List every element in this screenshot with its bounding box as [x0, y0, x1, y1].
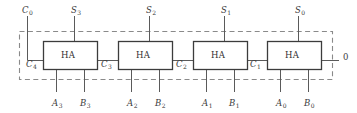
input-label-b0-subscript: 0 [311, 102, 315, 109]
input-label-a2-base: A [127, 98, 133, 108]
carry-label-3: C3 [101, 60, 112, 69]
carry-label-4: C4 [26, 60, 37, 69]
input-label-a0: A0 [276, 99, 286, 108]
input-label-b0-base: B [304, 98, 310, 108]
input-label-a0-subscript: 0 [283, 102, 287, 109]
input-label-a2-subscript: 2 [134, 102, 138, 109]
input-label-b2-base: B [155, 98, 161, 108]
carry-label-3-base: C [101, 59, 108, 69]
sum-label-2-subscript: 2 [152, 9, 156, 16]
input-label-a3-subscript: 3 [59, 102, 63, 109]
carry-label-3-subscript: 3 [108, 63, 112, 70]
carry-in-wire [28, 16, 44, 61]
carry-label-2: C2 [176, 60, 187, 69]
input-label-a1-subscript: 1 [209, 102, 213, 109]
sum-label-1: S1 [221, 6, 231, 15]
sum-label-0: S0 [295, 6, 305, 15]
sum-label-2: S2 [146, 6, 156, 15]
carry-label-1-base: C [250, 59, 257, 69]
input-label-a3-base: A [52, 98, 58, 108]
carry-label-1: C1 [250, 60, 261, 69]
input-label-b0: B0 [304, 99, 314, 108]
input-label-a1: A1 [202, 99, 212, 108]
carry-label-1-subscript: 1 [257, 63, 261, 70]
input-label-a2: A2 [127, 99, 137, 108]
input-label-a3: A3 [52, 99, 62, 108]
carry-label-4-base: C [26, 59, 33, 69]
half-adder-label-1: HA [136, 51, 150, 60]
input-label-b1-subscript: 1 [236, 102, 240, 109]
sum-label-3: S3 [71, 6, 81, 15]
carry-label-4-subscript: 4 [33, 63, 37, 70]
input-label-b2-subscript: 2 [162, 102, 166, 109]
half-adder-array-diagram: HAHAHAHA C0S3S2S1S0 C4C3C2C1 A3B3A2B2A1B… [0, 0, 357, 113]
half-adder-label-2: HA [211, 51, 225, 60]
sum-label-0-subscript: 0 [301, 9, 305, 16]
input-label-a0-base: A [276, 98, 282, 108]
input-label-b3-subscript: 3 [87, 102, 91, 109]
carry-in-label-base: C [22, 5, 29, 15]
input-label-b3: B3 [80, 99, 90, 108]
sum-label-3-subscript: 3 [77, 9, 81, 16]
circuit-wiring [0, 0, 357, 113]
carry-label-2-subscript: 2 [183, 63, 187, 70]
input-label-b1: B1 [229, 99, 239, 108]
input-label-b2: B2 [155, 99, 165, 108]
carry-in-label-subscript: 0 [29, 9, 33, 16]
half-adder-label-0: HA [61, 51, 75, 60]
output-label-zero: 0 [343, 53, 349, 62]
sum-label-1-subscript: 1 [227, 9, 231, 16]
input-label-a1-base: A [202, 98, 208, 108]
input-label-b3-base: B [80, 98, 86, 108]
input-label-b1-base: B [229, 98, 235, 108]
half-adder-label-3: HA [285, 51, 299, 60]
carry-label-2-base: C [176, 59, 183, 69]
carry-in-label: C0 [22, 6, 33, 15]
